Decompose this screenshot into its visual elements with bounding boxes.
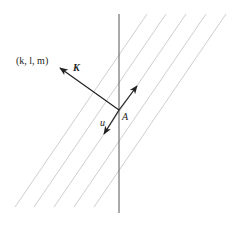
hatch-line-5 [94,14,226,207]
displacement-arrow [104,110,119,134]
wave-vector-label: K [72,62,81,73]
wave-plane-diagram: (k, l, m) K u A [0,0,237,229]
direction-label: (k, l, m) [16,55,48,67]
displacement-label: u [100,117,105,128]
hatch-line-3 [54,14,186,207]
hatch-lines [15,14,226,207]
hatch-line-4 [74,14,206,207]
point-A-label: A [121,111,129,122]
up-arrow [119,86,137,110]
hatch-line-2 [34,14,166,207]
wave-vector-arrow [60,68,119,110]
